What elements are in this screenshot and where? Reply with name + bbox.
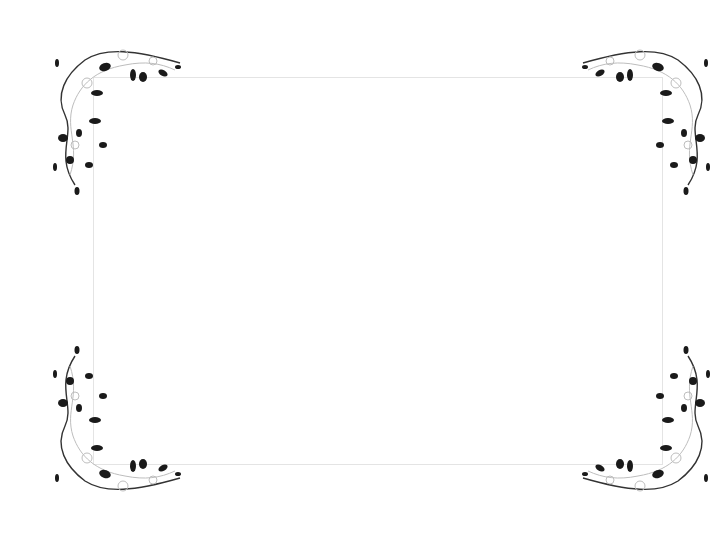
floral-vine-icon	[35, 35, 185, 195]
floral-vine-icon	[578, 346, 728, 506]
floral-vine-icon	[35, 346, 185, 506]
floral-vine-icon	[578, 35, 728, 195]
